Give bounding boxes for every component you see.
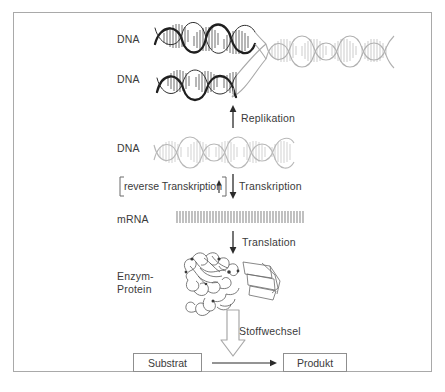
label-reverse-transkription: reverse Transkription: [124, 180, 222, 192]
box-produkt-text: Produkt: [297, 357, 333, 369]
label-replikation: Replikation: [241, 112, 295, 124]
label-translation: Translation: [242, 236, 296, 248]
molecular-biology-diagram: DNA DNA DNA mRNA Enzym- Protein Replikat…: [0, 0, 445, 392]
label-mrna: mRNA: [117, 213, 149, 225]
label-dna-top: DNA: [117, 33, 140, 45]
box-substrat-text: Substrat: [148, 357, 187, 369]
label-enzyme-line2: Protein: [117, 283, 152, 295]
box-substrat: Substrat: [133, 353, 202, 372]
label-transkription: Transkription: [239, 180, 302, 192]
label-enzyme-line1: Enzym-: [117, 270, 154, 282]
label-dna-third: DNA: [117, 142, 140, 154]
box-produkt: Produkt: [283, 353, 347, 372]
label-stoffwechsel: Stoffwechsel: [239, 325, 301, 337]
label-dna-second: DNA: [117, 73, 140, 85]
diagram-frame: [13, 12, 432, 372]
